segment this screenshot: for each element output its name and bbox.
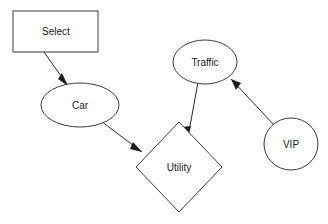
edge-vip-to-traffic[interactable] <box>231 79 274 125</box>
diagram-canvas: Select Car Utility Traffic VIP <box>0 0 328 224</box>
node-car[interactable]: Car <box>41 83 119 127</box>
node-utility-label: Utility <box>167 162 191 173</box>
edge-select-to-car[interactable] <box>44 52 68 86</box>
node-select[interactable]: Select <box>13 11 98 52</box>
node-traffic[interactable]: Traffic <box>173 40 237 84</box>
node-select-label: Select <box>42 26 70 37</box>
diagram-svg: Select Car Utility Traffic VIP <box>0 0 328 224</box>
node-group: Select Car Utility Traffic VIP <box>13 11 318 212</box>
node-vip-label: VIP <box>283 139 299 150</box>
node-car-label: Car <box>72 100 89 111</box>
node-vip[interactable]: VIP <box>264 118 318 170</box>
arrowhead-car-to-utility <box>130 142 142 152</box>
edge-car-to-utility[interactable] <box>101 121 142 152</box>
node-traffic-label: Traffic <box>191 57 218 68</box>
node-utility[interactable]: Utility <box>136 122 222 212</box>
